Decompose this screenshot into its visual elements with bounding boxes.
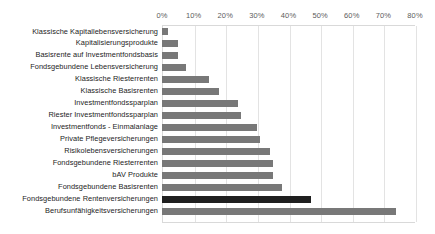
bar[interactable] bbox=[162, 76, 209, 83]
category-label: Fondsgebundene Rentenversicherungen bbox=[22, 194, 158, 203]
category-label: Klassische Kapitallebensversicherung bbox=[32, 27, 158, 36]
x-tick-label: 80% bbox=[407, 11, 422, 20]
chart-row: bAV Produkte bbox=[0, 169, 435, 181]
bar[interactable] bbox=[162, 28, 168, 35]
chart-row: Riester Investmentfondssparplan bbox=[0, 110, 435, 122]
category-label: Fondsgebundene Riesterrenten bbox=[53, 158, 158, 167]
category-label: Fondsgebundene Lebensversicherung bbox=[30, 62, 158, 71]
bar[interactable] bbox=[162, 112, 241, 119]
chart-row: Fondsgebundene Basisrenten bbox=[0, 181, 435, 193]
x-tick-label: 0% bbox=[156, 11, 167, 20]
x-tick-label: 20% bbox=[218, 11, 233, 20]
bar[interactable] bbox=[162, 52, 178, 59]
category-label: Berufsunfähigkeitsversicherungen bbox=[45, 206, 158, 215]
bar[interactable] bbox=[162, 172, 273, 179]
x-axis-tick-labels: 0%10%20%30%40%50%60%70%80% bbox=[0, 11, 435, 23]
chart-row: Kapitalisierungsprodukte bbox=[0, 38, 435, 50]
bar[interactable] bbox=[162, 148, 270, 155]
bar[interactable] bbox=[162, 184, 282, 191]
category-label: Investmentfonds - Einmalanlage bbox=[51, 122, 158, 131]
category-label: bAV Produkte bbox=[112, 170, 158, 179]
chart-row: Private Pflegeversicherungen bbox=[0, 134, 435, 146]
chart-row: Basisrente auf Investmentfondsbasis bbox=[0, 50, 435, 62]
category-label: Risikolebensversicherungen bbox=[64, 146, 158, 155]
chart-row: Investmentfondssparplan bbox=[0, 98, 435, 110]
chart-row: Fondsgebundene Lebensversicherung bbox=[0, 62, 435, 74]
bar-chart: 0%10%20%30%40%50%60%70%80% Klassische Ka… bbox=[0, 0, 435, 234]
bar[interactable] bbox=[162, 196, 311, 203]
x-tick-label: 10% bbox=[186, 11, 201, 20]
bar[interactable] bbox=[162, 208, 396, 215]
x-tick-label: 50% bbox=[312, 11, 327, 20]
chart-row: Klassische Basisrenten bbox=[0, 86, 435, 98]
chart-row: Klassische Riesterrenten bbox=[0, 74, 435, 86]
category-label: Investmentfondssparplan bbox=[74, 98, 158, 107]
category-label: Fondsgebundene Basisrenten bbox=[58, 182, 158, 191]
category-label: Private Pflegeversicherungen bbox=[60, 134, 158, 143]
chart-row: Klassische Kapitallebensversicherung bbox=[0, 26, 435, 38]
chart-row: Fondsgebundene Rentenversicherungen bbox=[0, 193, 435, 205]
category-label: Riester Investmentfondssparplan bbox=[48, 110, 158, 119]
x-tick-label: 40% bbox=[281, 11, 296, 20]
chart-row: Fondsgebundene Riesterrenten bbox=[0, 157, 435, 169]
x-tick-label: 60% bbox=[344, 11, 359, 20]
x-tick-label: 70% bbox=[376, 11, 391, 20]
bar[interactable] bbox=[162, 40, 178, 47]
bar[interactable] bbox=[162, 100, 238, 107]
chart-row: Investmentfonds - Einmalanlage bbox=[0, 122, 435, 134]
bar[interactable] bbox=[162, 160, 273, 167]
category-label: Basisrente auf Investmentfondsbasis bbox=[35, 50, 158, 59]
chart-row: Berufsunfähigkeitsversicherungen bbox=[0, 205, 435, 217]
bar[interactable] bbox=[162, 64, 186, 71]
x-tick-label: 30% bbox=[249, 11, 264, 20]
bar[interactable] bbox=[162, 124, 257, 131]
chart-row: Risikolebensversicherungen bbox=[0, 146, 435, 158]
category-label: Klassische Basisrenten bbox=[80, 86, 158, 95]
category-label: Kapitalisierungsprodukte bbox=[76, 38, 158, 47]
bar[interactable] bbox=[162, 136, 260, 143]
bar[interactable] bbox=[162, 88, 219, 95]
category-label: Klassische Riesterrenten bbox=[75, 74, 158, 83]
